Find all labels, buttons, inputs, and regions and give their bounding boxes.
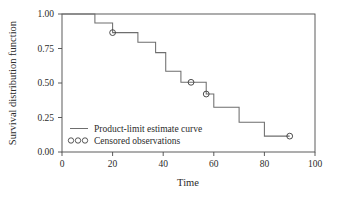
x-tick-label: 100 — [308, 159, 323, 169]
legend-label-censored: Censored observations — [94, 136, 181, 146]
chart-background — [0, 0, 342, 201]
legend-label-curve: Product-limit estimate curve — [94, 124, 202, 134]
x-tick-label: 40 — [158, 159, 168, 169]
y-axis-title: Survival distribution function — [7, 20, 18, 145]
x-tick-label: 0 — [60, 159, 65, 169]
chart-canvas: 020406080100 0.000.250.500.751.00 Produc… — [0, 0, 342, 201]
y-tick-label: 0.25 — [37, 113, 54, 123]
y-tick-label: 0.50 — [37, 78, 54, 88]
y-tick-label: 0.00 — [37, 147, 54, 157]
y-tick-label: 0.75 — [37, 44, 54, 54]
x-axis-title: Time — [177, 177, 199, 188]
survival-chart: 020406080100 0.000.250.500.751.00 Produc… — [0, 0, 342, 201]
x-tick-label: 20 — [108, 159, 118, 169]
y-tick-label: 1.00 — [37, 9, 54, 19]
x-tick-label: 80 — [260, 159, 270, 169]
x-tick-label: 60 — [209, 159, 219, 169]
